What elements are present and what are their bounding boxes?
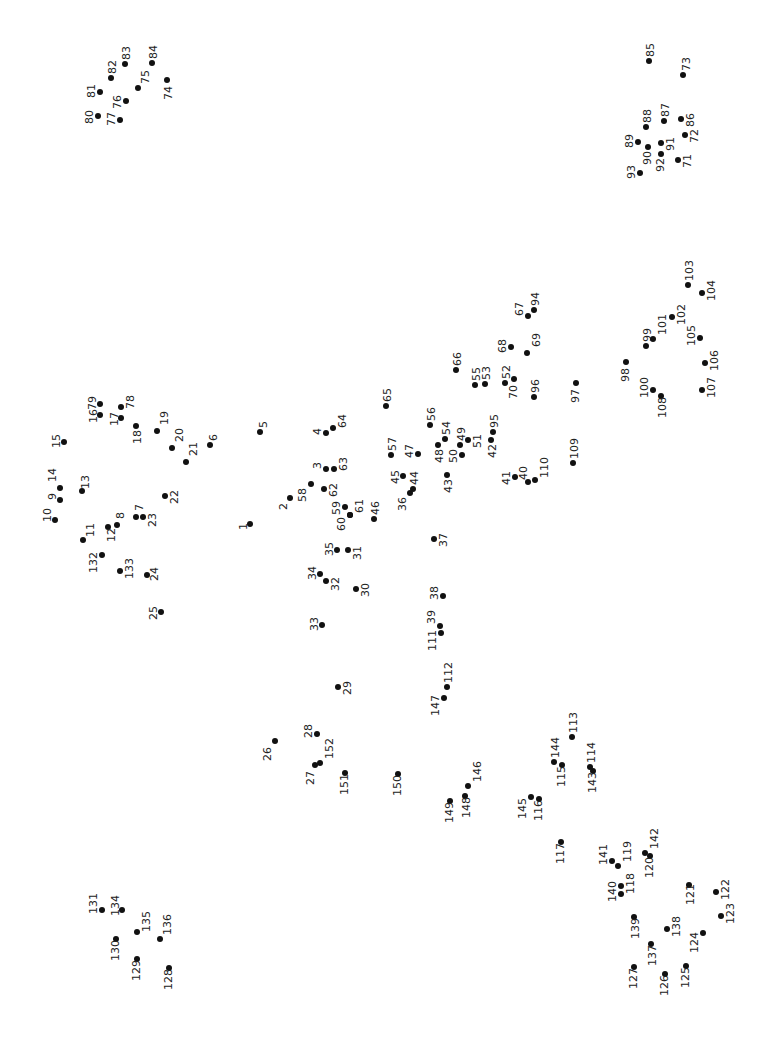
dot-number-label: 114 [586, 742, 597, 763]
dot-number-label: 110 [539, 457, 550, 478]
dot-number-label: 26 [262, 747, 273, 761]
dot-number-label: 20 [174, 428, 185, 442]
dot-marker [164, 77, 170, 83]
dot-marker [482, 381, 488, 387]
dot-marker [371, 516, 377, 522]
dot-number-label: 141 [598, 844, 609, 865]
dot-marker [472, 382, 478, 388]
dot-number-label: 34 [307, 566, 318, 580]
dot-number-label: 122 [720, 879, 731, 900]
dot-number-label: 5 [258, 421, 269, 428]
dot-marker [207, 442, 213, 448]
dot-number-label: 64 [337, 414, 348, 428]
dot-number-label: 92 [655, 158, 666, 172]
dot-number-label: 144 [550, 737, 561, 758]
dot-number-label: 73 [681, 57, 692, 71]
dot-number-label: 55 [471, 367, 482, 381]
dot-number-label: 41 [501, 471, 512, 485]
dot-number-label: 63 [338, 457, 349, 471]
dot-number-label: 137 [647, 945, 658, 966]
dot-number-label: 115 [556, 766, 567, 787]
dot-number-label: 30 [360, 583, 371, 597]
dot-marker [623, 359, 629, 365]
dot-number-label: 118 [625, 873, 636, 894]
dot-number-label: 4 [312, 428, 323, 435]
dot-number-label: 147 [430, 695, 441, 716]
dot-number-label: 9 [47, 493, 58, 500]
dot-marker [643, 343, 649, 349]
dot-number-label: 124 [689, 932, 700, 953]
dot-number-label: 132 [88, 552, 99, 573]
dot-marker [488, 437, 494, 443]
dot-number-label: 2 [278, 503, 289, 510]
dot-number-label: 87 [660, 103, 671, 117]
dot-number-label: 113 [568, 712, 579, 733]
dot-marker [650, 336, 656, 342]
dot-number-label: 68 [497, 339, 508, 353]
dot-number-label: 151 [339, 774, 350, 795]
dot-number-label: 32 [330, 577, 341, 591]
dot-number-label: 25 [148, 606, 159, 620]
dot-marker [490, 429, 496, 435]
dot-number-label: 125 [680, 967, 691, 988]
dot-number-label: 67 [514, 302, 525, 316]
dot-marker [661, 118, 667, 124]
dot-number-label: 35 [324, 542, 335, 556]
dot-marker [569, 734, 575, 740]
dot-marker [57, 485, 63, 491]
dot-number-label: 60 [336, 517, 347, 531]
dot-marker [157, 936, 163, 942]
dot-number-label: 7 [134, 504, 145, 511]
dot-number-label: 119 [622, 841, 633, 862]
dot-number-label: 22 [169, 490, 180, 504]
dot-marker [410, 486, 416, 492]
dot-number-label: 33 [309, 617, 320, 631]
dot-number-label: 95 [489, 414, 500, 428]
dot-number-label: 45 [390, 470, 401, 484]
dot-number-label: 19 [159, 411, 170, 425]
dot-number-label: 65 [382, 388, 393, 402]
dot-number-label: 36 [397, 497, 408, 511]
dot-marker [524, 350, 530, 356]
dot-number-label: 8 [115, 512, 126, 519]
dot-number-label: 27 [305, 771, 316, 785]
dot-marker [317, 760, 323, 766]
dot-number-label: 90 [642, 151, 653, 165]
dot-number-label: 23 [147, 513, 158, 527]
dot-number-label: 133 [124, 558, 135, 579]
dot-number-label: 40 [518, 466, 529, 480]
dot-number-label: 46 [370, 501, 381, 515]
dot-number-label: 78 [125, 395, 136, 409]
dot-number-label: 105 [686, 325, 697, 346]
dot-marker [646, 58, 652, 64]
dot-number-label: 104 [706, 280, 717, 301]
dot-number-label: 127 [628, 968, 639, 989]
dot-marker [287, 495, 293, 501]
dot-marker [388, 452, 394, 458]
dot-number-label: 149 [444, 802, 455, 823]
dot-number-label: 123 [725, 903, 736, 924]
dot-number-label: 75 [140, 70, 151, 84]
dot-marker [133, 423, 139, 429]
dot-number-label: 98 [620, 368, 631, 382]
dot-marker [453, 367, 459, 373]
dot-marker [531, 307, 537, 313]
dot-number-label: 116 [533, 800, 544, 821]
dot-marker [444, 472, 450, 478]
dot-number-label: 126 [659, 975, 670, 996]
dot-number-label: 134 [110, 895, 121, 916]
dot-marker [643, 124, 649, 130]
dot-number-label: 15 [51, 434, 62, 448]
dot-number-label: 56 [426, 407, 437, 421]
dot-number-label: 135 [141, 911, 152, 932]
dot-marker [183, 459, 189, 465]
dot-number-label: 24 [149, 567, 160, 581]
dot-number-label: 106 [709, 350, 720, 371]
dot-marker [511, 376, 517, 382]
dot-marker [457, 442, 463, 448]
dot-marker [169, 445, 175, 451]
dot-number-label: 39 [426, 610, 437, 624]
dot-number-label: 130 [110, 940, 121, 961]
dot-number-label: 100 [639, 377, 650, 398]
dot-number-label: 69 [531, 333, 542, 347]
